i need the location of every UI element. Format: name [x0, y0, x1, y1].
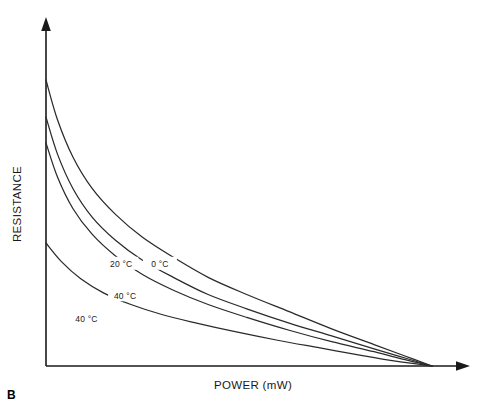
x-axis-title: POWER (mW) [214, 379, 292, 391]
series-label-20c: 20 °C [110, 259, 132, 269]
curve-0c [46, 80, 432, 366]
figure-panel-b: 0 °C 20 °C 40 °C 40 °C POWER (mW) RESIST… [0, 0, 485, 411]
series-label-40c-upper: 40 °C [114, 291, 136, 301]
series-label-0c: 0 °C [151, 259, 168, 269]
curve-40c-lower [46, 243, 432, 366]
y-axis-arrow-icon [41, 17, 51, 31]
y-axis-title: RESISTANCE [11, 166, 23, 242]
y-axis [41, 17, 51, 366]
panel-label-b: B [7, 389, 16, 401]
curve-20c [46, 117, 432, 366]
series-label-40c-lower: 40 °C [75, 314, 97, 324]
curve-group [46, 80, 432, 366]
resistance-power-chart: 0 °C 20 °C 40 °C 40 °C POWER (mW) RESIST… [0, 0, 485, 411]
x-axis-arrow-icon [456, 361, 470, 371]
series-label-group: 0 °C 20 °C 40 °C 40 °C [75, 259, 168, 323]
